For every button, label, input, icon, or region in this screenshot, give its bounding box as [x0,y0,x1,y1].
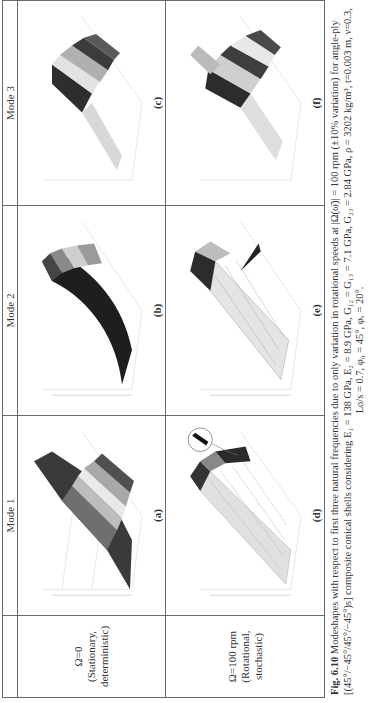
header-mode-3: Mode 3 [3,1,18,205]
surface-plot-mode-3-rotational [170,7,306,199]
modeshape-figure-table: Mode 1 Mode 2 Mode 3 Ω=0 (Stationary, de… [2,0,325,698]
surface-plot-mode-1-stationary [22,422,147,609]
row-label-line: stochastic) [252,630,265,682]
row-label-line: Ω=0 (Stationary, [72,622,98,691]
figure-number: Fig. 6.10 [329,657,340,695]
row-label-stationary: Ω=0 (Stationary, deterministic) [18,615,166,697]
panel-b: (b) [18,205,166,415]
row-label-line: deterministic) [98,622,111,691]
row-label-line: Ω=100 rpm [226,630,239,682]
header-mode-2: Mode 2 [3,205,18,415]
row-label-rotational: Ω=100 rpm (Rotational, stochastic) [166,615,324,697]
surface-plot-mode-2-stationary [22,212,147,409]
surface-plot-mode-3-stationary [22,7,147,199]
panel-label: (d) [310,416,322,615]
panel-label: (f) [310,1,322,205]
surface-plot-mode-2-rotational [170,212,306,409]
rotated-page: Mode 1 Mode 2 Mode 3 Ω=0 (Stationary, de… [0,0,371,703]
row-label-line: (Rotational, [239,630,252,682]
header-mode-1: Mode 1 [3,415,18,615]
panel-f: (f) [166,1,324,205]
panel-c: (c) [18,1,166,205]
panel-d: (d) [166,415,324,615]
panel-label: (c) [151,1,163,205]
figure-caption: Fig. 6.10 Modeshapes with respect to fir… [329,5,367,695]
panel-label: (e) [310,206,322,415]
panel-label: (a) [151,416,163,615]
caption-line-1: Modeshapes with respect to first three n… [329,20,340,654]
header-corner [3,615,18,697]
panel-label: (b) [151,206,163,415]
panel-a: (a) [18,415,166,615]
panel-e: (e) [166,205,324,415]
caption-line-2: [(45°/−45°/45°/−45°)s] composite conical… [342,8,353,695]
surface-plot-mode-1-rotational [170,422,306,609]
caption-line-3: Lo/s = 0.7, φ₀ = 45°, φᵥ = 20°. [354,5,367,695]
